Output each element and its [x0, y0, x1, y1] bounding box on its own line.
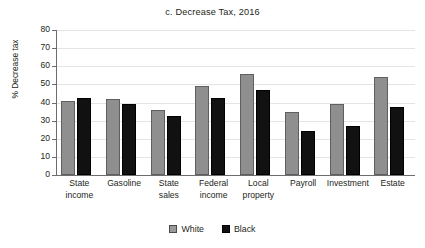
- x-tick-label-line1: Gasoline: [107, 178, 141, 188]
- x-tick-label-line1: State: [159, 178, 179, 188]
- legend-swatch-black-icon: [222, 225, 230, 233]
- y-tick-label: 70: [6, 43, 50, 52]
- x-tick-label-line1: State: [69, 178, 89, 188]
- y-tick-mark: [52, 66, 56, 67]
- x-axis-category-labels: StateincomeGasolineStatesalesFederalinco…: [57, 178, 415, 218]
- y-axis-ticks: 80706050403020100: [0, 0, 50, 248]
- bar-group: [102, 30, 147, 175]
- bar-white: [61, 101, 75, 175]
- y-tick-label: 10: [6, 152, 50, 161]
- legend-label: White: [181, 224, 204, 234]
- bar-white: [151, 110, 165, 175]
- y-tick-mark: [52, 157, 56, 158]
- bar-white: [285, 112, 299, 175]
- y-tick-label: 60: [6, 61, 50, 70]
- chart-figure: c. Decrease Tax, 2016 % Decrease tax 807…: [0, 0, 425, 248]
- bar-white: [195, 86, 209, 175]
- x-tick-label-line2: property: [230, 190, 287, 202]
- plot-area: [57, 30, 415, 175]
- x-tick-label-line1: Investment: [327, 178, 369, 188]
- y-tick-mark: [52, 103, 56, 104]
- y-tick-mark: [52, 30, 56, 31]
- legend-swatch-white-icon: [169, 225, 177, 233]
- bar-black: [301, 131, 315, 175]
- bar-black: [390, 107, 404, 175]
- x-tick-label-line2: income: [51, 190, 108, 202]
- bar-group: [57, 30, 102, 175]
- x-tick-label-line1: Payroll: [290, 178, 316, 188]
- x-tick-label: Estate: [364, 178, 421, 190]
- y-tick-mark: [52, 48, 56, 49]
- bar-black: [122, 104, 136, 175]
- y-tick-label: 80: [6, 25, 50, 34]
- bar-white: [240, 74, 254, 175]
- y-tick-label: 50: [6, 79, 50, 88]
- bar-white: [374, 77, 388, 175]
- bar-white: [106, 99, 120, 175]
- bar-group: [281, 30, 326, 175]
- bar-group: [147, 30, 192, 175]
- x-tick-label-line1: Estate: [380, 178, 404, 188]
- bar-black: [77, 98, 91, 175]
- y-tick-label: 0: [6, 170, 50, 179]
- x-tick-label-line1: Local: [248, 178, 269, 188]
- legend-label: Black: [234, 224, 256, 234]
- chart-title: c. Decrease Tax, 2016: [0, 7, 425, 17]
- y-tick-mark: [52, 84, 56, 85]
- y-tick-mark: [52, 121, 56, 122]
- x-tick-label-line1: Federal: [199, 178, 228, 188]
- bar-group: [326, 30, 371, 175]
- legend-item-black[interactable]: Black: [222, 224, 256, 234]
- legend-item-white[interactable]: White: [169, 224, 204, 234]
- bar-group: [236, 30, 281, 175]
- bar-black: [211, 98, 225, 175]
- y-tick-mark: [52, 175, 56, 176]
- bar-group: [370, 30, 415, 175]
- y-tick-label: 20: [6, 134, 50, 143]
- y-tick-label: 30: [6, 116, 50, 125]
- bar-white: [330, 104, 344, 175]
- axis-baseline: [57, 175, 415, 176]
- y-tick-label: 40: [6, 98, 50, 107]
- y-tick-mark: [52, 139, 56, 140]
- bar-black: [256, 90, 270, 175]
- bar-group: [191, 30, 236, 175]
- bar-black: [167, 116, 181, 175]
- bar-black: [346, 126, 360, 175]
- chart-legend: WhiteBlack: [0, 224, 425, 234]
